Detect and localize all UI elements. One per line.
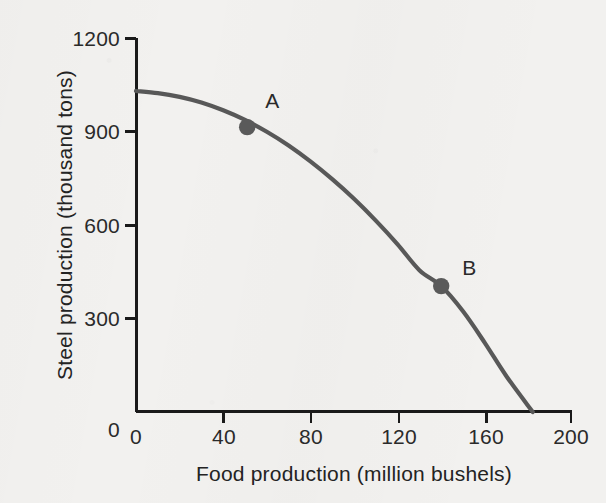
ppf-chart-figure: 1200 900 600 300 0 0 40 80 120 160 200 S… (0, 0, 606, 503)
x-tick-label-160: 160 (456, 425, 516, 449)
y-tick-label-1200: 1200 (52, 27, 120, 51)
data-point-a[interactable] (239, 119, 255, 135)
data-point-a-label: A (265, 89, 279, 113)
x-tick-label-0: 0 (106, 425, 166, 449)
x-tick-label-80: 80 (281, 425, 341, 449)
y-axis-title: Steel production (thousand tons) (53, 80, 77, 380)
x-axis-ticks (224, 412, 571, 423)
data-point-b[interactable] (433, 278, 449, 294)
y-axis-ticks (125, 39, 136, 319)
ppf-curve (136, 91, 533, 412)
x-tick-label-120: 120 (369, 425, 429, 449)
x-tick-label-40: 40 (194, 425, 254, 449)
x-tick-label-200: 200 (541, 425, 601, 449)
data-point-b-label: B (462, 256, 476, 280)
x-axis-title: Food production (million bushels) (136, 462, 572, 486)
